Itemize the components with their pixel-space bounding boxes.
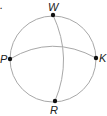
label-r: R [50, 104, 58, 116]
label-w: W [48, 1, 60, 13]
label-p: P [0, 53, 8, 65]
point-r [53, 99, 57, 103]
arc-w-r [53, 15, 64, 101]
label-k: K [99, 52, 107, 64]
point-p [8, 57, 12, 61]
point-k [94, 56, 98, 60]
outer-circle [10, 16, 96, 102]
stray-mark: . [0, 0, 3, 11]
point-w [51, 13, 55, 17]
sphere-diagram: . W P K R [0, 0, 107, 116]
arc-p-k [10, 46, 96, 59]
